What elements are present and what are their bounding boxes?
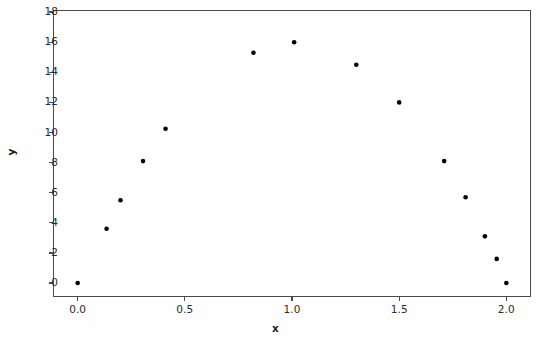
data-point — [354, 62, 359, 67]
y-axis-label: y — [5, 137, 17, 167]
y-tick-label: 14 — [18, 65, 58, 77]
x-tick-mark — [506, 297, 507, 301]
x-axis-label: x — [0, 322, 551, 334]
x-tick-label: 0.5 — [160, 303, 210, 315]
x-tick-mark — [77, 297, 78, 301]
y-tick-label: 10 — [18, 126, 58, 138]
data-point — [463, 195, 468, 200]
data-point — [494, 257, 499, 262]
x-tick-mark — [399, 297, 400, 301]
x-tick-mark — [184, 297, 185, 301]
data-point — [483, 234, 488, 239]
y-tick-label: 18 — [18, 5, 58, 17]
data-point — [104, 227, 109, 232]
data-point — [118, 198, 123, 203]
y-tick-label: 16 — [18, 35, 58, 47]
data-point — [163, 126, 168, 131]
y-tick-label: 12 — [18, 95, 58, 107]
x-tick-label: 1.0 — [267, 303, 317, 315]
x-tick-label: 0.0 — [53, 303, 103, 315]
y-tick-label: 4 — [18, 216, 58, 228]
data-point — [397, 100, 402, 105]
y-tick-label: 6 — [18, 186, 58, 198]
data-point — [442, 159, 447, 164]
data-point — [504, 281, 509, 286]
scatter-plot-figure: 024681012141618 0.00.51.01.52.0 x y — [0, 0, 551, 347]
plot-area — [53, 10, 531, 297]
data-point — [292, 40, 297, 45]
data-point — [75, 281, 80, 286]
x-tick-label: 1.5 — [374, 303, 424, 315]
data-point — [141, 159, 146, 164]
y-tick-label: 0 — [18, 276, 58, 288]
y-tick-label: 8 — [18, 156, 58, 168]
data-point — [251, 50, 256, 55]
data-point-group — [75, 40, 508, 285]
x-tick-mark — [291, 297, 292, 301]
x-tick-label: 2.0 — [481, 303, 531, 315]
y-tick-label: 2 — [18, 246, 58, 258]
